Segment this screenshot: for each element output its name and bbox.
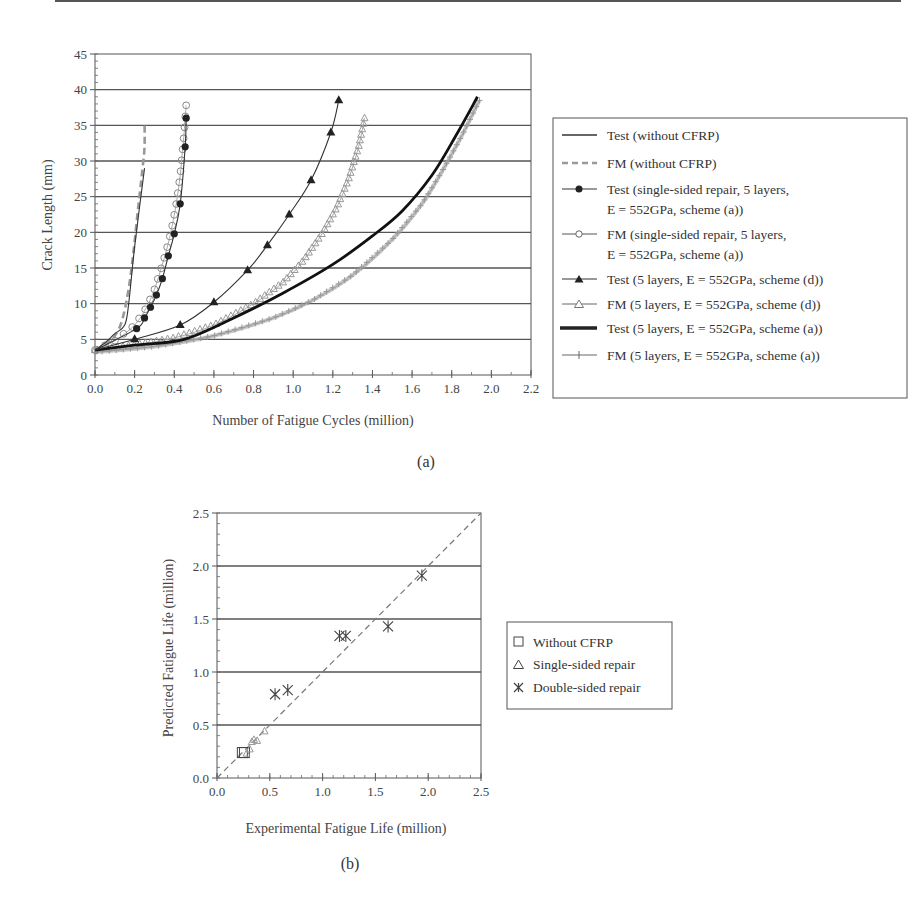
y-tick-label: 10 bbox=[74, 296, 87, 311]
legend-label: Test (single-sided repair, 5 layers, bbox=[607, 182, 789, 197]
filled-circle-marker-icon bbox=[165, 252, 172, 259]
filled-circle-marker-icon bbox=[171, 230, 178, 237]
x-tick-label: 1.8 bbox=[444, 381, 460, 396]
y-tick-label: 5 bbox=[81, 332, 88, 347]
open-circle-marker-icon bbox=[576, 231, 582, 237]
filled-circle-marker-icon bbox=[159, 275, 166, 282]
x-tick-label: 0.6 bbox=[206, 381, 223, 396]
y-tick-label: 40 bbox=[74, 82, 87, 97]
y-tick-label: 20 bbox=[74, 225, 87, 240]
chart-a-caption: (a) bbox=[417, 453, 435, 471]
x-tick-label: 1.5 bbox=[367, 784, 383, 799]
y-tick-label: 35 bbox=[74, 118, 87, 133]
legend-label: FM (single-sided repair, 5 layers, bbox=[607, 227, 786, 242]
x-tick-label: 1.6 bbox=[404, 381, 421, 396]
filled-circle-marker-icon bbox=[133, 325, 140, 332]
x-tick-label: 1.0 bbox=[285, 381, 301, 396]
open-square-marker-icon bbox=[514, 637, 523, 646]
legend-label: FM (5 layers, E = 552GPa, scheme (d)) bbox=[607, 297, 820, 312]
x-tick-label: 0.8 bbox=[245, 381, 261, 396]
x-tick-label: 1.2 bbox=[325, 381, 341, 396]
y-tick-label: 45 bbox=[74, 47, 87, 62]
chart-a-y-axis-title: Crack Length (mm) bbox=[40, 159, 56, 271]
x-tick-label: 2.5 bbox=[473, 784, 489, 799]
legend-label: Without CFRP bbox=[533, 635, 613, 650]
chart-b-caption: (b) bbox=[341, 855, 360, 873]
figure-canvas: 0510152025303540450.00.20.40.60.81.01.21… bbox=[0, 0, 910, 905]
legend-label: E = 552GPa, scheme (a)) bbox=[607, 247, 743, 262]
legend-label: Test (5 layers, E = 552GPa, scheme (d)) bbox=[607, 272, 823, 287]
y-tick-label: 1.0 bbox=[193, 665, 209, 680]
y-tick-label: 25 bbox=[74, 189, 87, 204]
legend-label: Test (5 layers, E = 552GPa, scheme (a)) bbox=[607, 321, 822, 336]
chart-a-plot-area bbox=[95, 54, 531, 375]
x-tick-label: 2.0 bbox=[483, 381, 499, 396]
chart-a-legend: Test (without CFRP) FM (without CFRP) Te… bbox=[553, 118, 907, 398]
filled-circle-marker-icon bbox=[147, 304, 154, 311]
x-tick-label: 0.4 bbox=[166, 381, 183, 396]
x-tick-label: 2.0 bbox=[420, 784, 436, 799]
filled-circle-marker-icon bbox=[177, 200, 184, 207]
chart-b-y-axis-title: Predicted Fatigue Life (million) bbox=[161, 558, 177, 737]
legend-label: Double-sided repair bbox=[533, 680, 641, 695]
chart-a: 0510152025303540450.00.20.40.60.81.01.21… bbox=[40, 47, 907, 472]
filled-circle-marker-icon bbox=[153, 292, 160, 299]
y-tick-label: 2.5 bbox=[193, 506, 209, 521]
filled-circle-marker-icon bbox=[182, 143, 189, 150]
legend-label: E = 552GPa, scheme (a)) bbox=[607, 202, 743, 217]
x-tick-label: 0.0 bbox=[87, 381, 103, 396]
y-tick-label: 2.0 bbox=[193, 559, 209, 574]
chart-b-legend: Without CFRP Single-sided repair Double-… bbox=[507, 622, 672, 709]
legend-label: Single-sided repair bbox=[533, 657, 636, 672]
filled-circle-marker-icon bbox=[576, 186, 583, 193]
x-tick-label: 0.2 bbox=[127, 381, 143, 396]
x-tick-label: 0.5 bbox=[262, 784, 278, 799]
y-tick-label: 1.5 bbox=[193, 612, 209, 627]
x-tick-label: 1.0 bbox=[314, 784, 330, 799]
legend-label: FM (without CFRP) bbox=[607, 156, 717, 171]
x-tick-label: 1.4 bbox=[364, 381, 381, 396]
legend-label: FM (5 layers, E = 552GPa, scheme (a)) bbox=[607, 348, 820, 363]
chart-b: 0.00.51.01.52.02.50.00.51.01.52.02.5 Exp… bbox=[161, 506, 672, 874]
legend-label: Test (without CFRP) bbox=[607, 128, 719, 143]
y-tick-label: 0.5 bbox=[193, 718, 209, 733]
y-tick-label: 0.0 bbox=[193, 771, 209, 786]
y-tick-label: 30 bbox=[74, 154, 87, 169]
x-tick-label: 0.0 bbox=[209, 784, 225, 799]
y-tick-label: 15 bbox=[74, 261, 87, 276]
filled-circle-marker-icon bbox=[141, 314, 148, 321]
chart-b-x-axis-title: Experimental Fatigue Life (million) bbox=[246, 821, 447, 837]
x-tick-label: 2.2 bbox=[523, 381, 539, 396]
filled-circle-marker-icon bbox=[183, 115, 190, 122]
chart-a-x-axis-title: Number of Fatigue Cycles (million) bbox=[212, 413, 414, 429]
